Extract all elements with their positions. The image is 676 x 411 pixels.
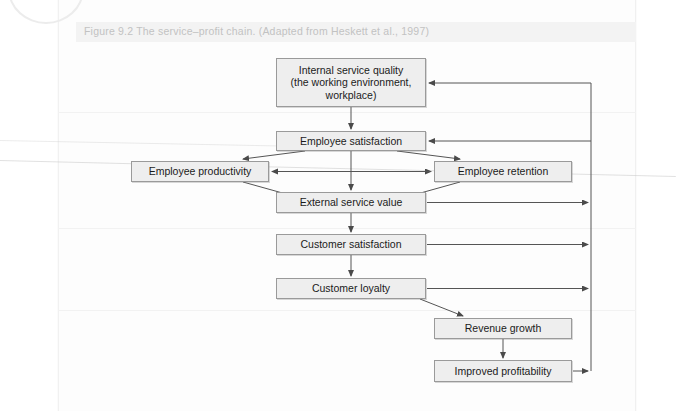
node-internal-service-quality[interactable]: Internal service quality (the working en… [276,58,426,107]
node-employee-satisfaction[interactable]: Employee satisfaction [276,131,426,151]
node-employee-productivity-label: Employee productivity [145,165,256,178]
node-improved-profitability[interactable]: Improved profitability [434,360,572,382]
node-employee-satisfaction-label: Employee satisfaction [296,135,406,148]
node-employee-retention[interactable]: Employee retention [434,161,572,182]
edge-esat-to-eret [397,151,460,159]
node-employee-retention-label: Employee retention [454,165,552,178]
node-external-service-value-label: External service value [296,196,407,209]
node-isq-line1: Internal service quality [287,64,416,77]
edge-esat-to-eprod [243,151,305,159]
node-customer-satisfaction[interactable]: Customer satisfaction [276,234,426,255]
node-isq-line3: workplace) [287,89,416,102]
edge-cloy-to-rev [420,299,463,316]
node-revenue-growth-label: Revenue growth [461,322,545,335]
node-customer-loyalty-label: Customer loyalty [308,282,394,295]
node-customer-satisfaction-label: Customer satisfaction [297,238,406,251]
node-revenue-growth[interactable]: Revenue growth [434,318,572,339]
node-employee-productivity[interactable]: Employee productivity [131,161,269,182]
node-external-service-value[interactable]: External service value [276,192,426,213]
node-customer-loyalty[interactable]: Customer loyalty [276,278,426,299]
node-improved-profitability-label: Improved profitability [451,365,556,378]
node-isq-line2: (the working environment, [287,76,416,89]
